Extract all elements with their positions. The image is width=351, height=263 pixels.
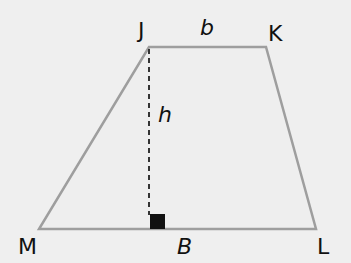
vertex-label-k: K [268, 23, 282, 45]
trapezoid-shape [39, 47, 316, 229]
vertex-label-j: J [138, 20, 145, 42]
height-label: h [158, 104, 172, 126]
top-base-label: b [200, 17, 214, 39]
right-angle-marker [150, 214, 165, 229]
bottom-base-label: B [177, 236, 192, 258]
trapezoid-figure [0, 0, 351, 263]
trapezoid-diagram: J K L M b B h [0, 0, 351, 263]
vertex-label-m: M [18, 236, 37, 258]
vertex-label-l: L [317, 236, 329, 258]
